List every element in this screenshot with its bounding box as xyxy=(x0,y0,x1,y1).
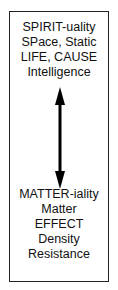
label-intelligence: Intelligence xyxy=(10,65,108,80)
label-matter: Matter xyxy=(10,202,108,217)
label-life-cause: LIFE, CAUSE xyxy=(10,50,108,65)
label-spirituality: SPIRIT-uality xyxy=(10,20,108,35)
label-density: Density xyxy=(10,232,108,247)
double-arrow-icon xyxy=(50,87,70,189)
spirit-block: SPIRIT-uality SPace, Static LIFE, CAUSE … xyxy=(10,20,108,80)
matter-block: MATTER-iality Matter EFFECT Density Resi… xyxy=(10,187,108,262)
label-space-static: SPace, Static xyxy=(10,35,108,50)
diagram-box: SPIRIT-uality SPace, Static LIFE, CAUSE … xyxy=(9,11,109,282)
label-resistance: Resistance xyxy=(10,247,108,262)
label-materiality: MATTER-iality xyxy=(10,187,108,202)
label-effect: EFFECT xyxy=(10,217,108,232)
